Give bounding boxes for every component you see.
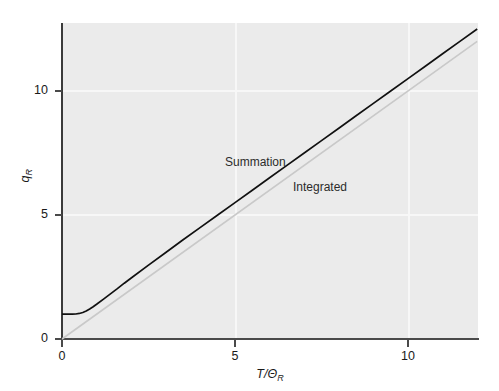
y-ticklabel-5: 5 — [8, 208, 48, 221]
y-axis-label: qR — [18, 156, 34, 196]
plot-area — [62, 23, 478, 339]
x-axis-label: T/ΘR — [210, 367, 330, 383]
x-axis-line — [62, 338, 479, 340]
y-axis-label-sub: R — [24, 169, 34, 176]
x-tick-10 — [407, 340, 409, 347]
y-axis-label-main: q — [18, 176, 32, 183]
x-tick-5 — [234, 340, 236, 347]
x-axis-label-main: T/Θ — [256, 367, 277, 381]
annotation-summation: Summation — [225, 155, 286, 169]
x-ticklabel-0: 0 — [42, 350, 82, 363]
annotation-integrated: Integrated — [293, 180, 347, 194]
y-axis-line — [61, 23, 63, 340]
x-tick-0 — [61, 340, 63, 347]
x-ticklabel-10: 10 — [388, 350, 428, 363]
gridline-y-10 — [62, 90, 478, 92]
chart-figure: 10 5 0 0 5 10 T/ΘR qR Summation Integrat… — [0, 0, 499, 391]
y-ticklabel-10: 10 — [8, 84, 48, 97]
gridline-x-5 — [235, 23, 237, 339]
x-axis-label-sub: R — [277, 373, 284, 383]
gridline-y-5 — [62, 214, 478, 216]
x-ticklabel-5: 5 — [215, 350, 255, 363]
y-ticklabel-0: 0 — [8, 332, 48, 345]
gridline-x-10 — [408, 23, 410, 339]
y-tick-10 — [55, 90, 62, 92]
y-tick-5 — [55, 214, 62, 216]
